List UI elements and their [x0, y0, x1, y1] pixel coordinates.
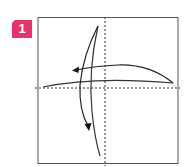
origami-diagram — [0, 0, 190, 167]
paper-square — [38, 18, 178, 164]
